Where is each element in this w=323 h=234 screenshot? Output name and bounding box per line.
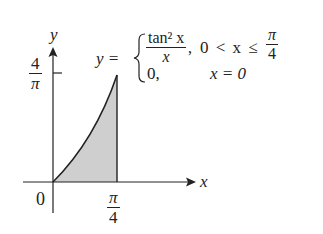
case1-condition-fraction: π 4: [266, 27, 278, 62]
x-axis-label: x: [200, 173, 208, 190]
case1-condition: 0 < x ≤: [200, 39, 258, 56]
y-tick-label: 4 π: [29, 55, 42, 92]
y-axis-label: y: [50, 26, 58, 43]
case1-fraction: tan² x x: [146, 30, 186, 65]
case2-condition: x = 0: [210, 65, 246, 82]
origin-label: 0: [36, 190, 45, 208]
case2-value: 0,: [147, 65, 160, 82]
figure: y x 0 4 π π 4 y = tan² x x , 0 < x ≤ π 4…: [0, 0, 323, 234]
x-tick-label: π 4: [107, 189, 120, 226]
shaded-area: [53, 75, 117, 182]
case1-comma: ,: [188, 40, 192, 56]
brace: [134, 34, 145, 82]
equation-lhs: y =: [96, 50, 119, 67]
